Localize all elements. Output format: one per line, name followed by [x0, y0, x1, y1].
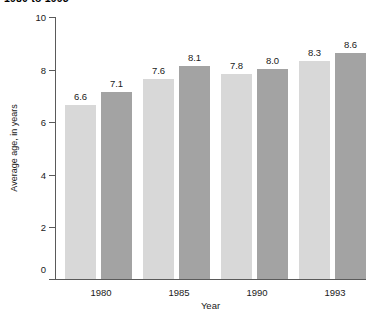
bar-value-label: 8.1 — [188, 52, 201, 63]
bar-1993-light[interactable]: 8.3 — [299, 61, 330, 279]
x-tick-label-1990: 1990 — [246, 287, 267, 298]
bar-1985-light[interactable]: 7.6 — [143, 79, 174, 279]
bar-1980-light[interactable]: 6.6 — [65, 105, 96, 279]
bar-1980-dark[interactable]: 7.1 — [101, 92, 132, 279]
bar-value-label: 7.6 — [152, 65, 165, 76]
bar-value-label: 8.0 — [266, 55, 279, 66]
bar-value-label: 7.8 — [230, 60, 243, 71]
plot-area: 0 2 4 6 8 10 6.6 7.1 1980 — [55, 17, 366, 280]
x-axis-line — [55, 279, 366, 280]
y-tick-label: 8 — [41, 64, 46, 75]
bar-value-label: 8.3 — [308, 47, 321, 58]
chart-title: 1980 to 1993 — [4, 0, 69, 4]
y-axis-line — [55, 17, 56, 280]
bar-value-label: 7.1 — [110, 78, 123, 89]
y-tick-label: 4 — [41, 169, 46, 180]
y-tick-label: 10 — [35, 12, 46, 23]
bar-1993-dark[interactable]: 8.6 — [335, 53, 366, 279]
x-axis-title: Year — [55, 300, 366, 311]
y-tick-label: 2 — [41, 222, 46, 233]
bar-value-label: 8.6 — [344, 39, 357, 50]
bar-1985-dark[interactable]: 8.1 — [179, 66, 210, 279]
bar-1990-dark[interactable]: 8.0 — [257, 69, 288, 279]
y-tick-label: 0 — [41, 264, 46, 275]
x-tick-label-1993: 1993 — [324, 287, 345, 298]
y-tick-label: 6 — [41, 117, 46, 128]
x-tick-label-1985: 1985 — [168, 287, 189, 298]
bar-value-label: 6.6 — [74, 91, 87, 102]
bar-chart: 1980 to 1993 Average age, in years 0 2 4… — [0, 0, 371, 322]
x-tick-label-1980: 1980 — [90, 287, 111, 298]
bar-1990-light[interactable]: 7.8 — [221, 74, 252, 279]
y-axis-title: Average age, in years — [9, 104, 19, 191]
